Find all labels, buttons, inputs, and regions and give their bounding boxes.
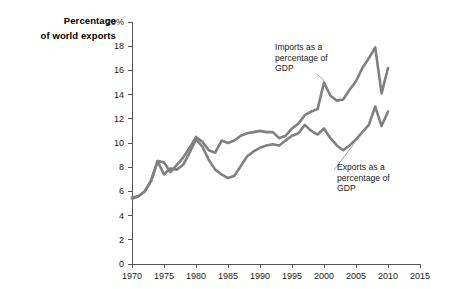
x-tick-label-1975: 1975 bbox=[147, 271, 181, 281]
y-tick-label-0: 0 bbox=[98, 259, 124, 269]
leader-line-imports bbox=[317, 74, 324, 81]
y-tick-label-18: 18 bbox=[98, 41, 124, 51]
chart-container: Percentage of world exports 024681012141… bbox=[0, 0, 454, 289]
annotation-imports-line-2: percentage of bbox=[275, 53, 328, 64]
y-tick-label-2: 2 bbox=[98, 235, 124, 245]
y-tick-label-6: 6 bbox=[98, 186, 124, 196]
x-tick-label-1990: 1990 bbox=[243, 271, 277, 281]
x-tick-label-2005: 2005 bbox=[339, 271, 373, 281]
annotation-imports-line-3: GDP bbox=[275, 63, 328, 74]
y-axis-title-line-2: of world exports bbox=[0, 29, 116, 42]
y-tick-label-20: 20% bbox=[94, 17, 124, 27]
y-tick-label-12: 12 bbox=[98, 114, 124, 124]
x-tick-label-1995: 1995 bbox=[275, 271, 309, 281]
annotation-imports-line-1: Imports as a bbox=[275, 42, 328, 53]
x-tick-label-2000: 2000 bbox=[307, 271, 341, 281]
x-tick-label-2010: 2010 bbox=[371, 271, 405, 281]
annotation-exports-line-3: GDP bbox=[337, 183, 390, 194]
annotation-leader-lines bbox=[317, 74, 367, 170]
y-tick-label-16: 16 bbox=[98, 65, 124, 75]
y-tick-label-14: 14 bbox=[98, 90, 124, 100]
x-tick-label-2015: 2015 bbox=[403, 271, 437, 281]
y-tick-label-8: 8 bbox=[98, 162, 124, 172]
y-tick-label-4: 4 bbox=[98, 211, 124, 221]
x-tick-label-1980: 1980 bbox=[179, 271, 213, 281]
annotation-exports-line-2: percentage of bbox=[337, 173, 390, 184]
annotation-imports: Imports as a percentage of GDP bbox=[275, 42, 328, 74]
y-tick-label-10: 10 bbox=[98, 138, 124, 148]
annotation-exports-line-1: Exports as a bbox=[337, 162, 390, 173]
x-tick-label-1985: 1985 bbox=[211, 271, 245, 281]
x-tick-label-1970: 1970 bbox=[115, 271, 149, 281]
annotation-exports: Exports as a percentage of GDP bbox=[337, 162, 390, 194]
plot-area bbox=[0, 0, 454, 289]
